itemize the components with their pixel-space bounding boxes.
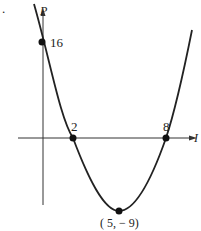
- root-left-label: 2: [71, 120, 78, 133]
- vertex-label: ( 5, − 9): [100, 217, 139, 229]
- point-vertex: [116, 208, 123, 215]
- bullet-mark: .: [2, 2, 5, 15]
- parabola-graph: [0, 0, 201, 231]
- point-root-left: [70, 135, 77, 142]
- x-axis-label: I: [194, 132, 198, 144]
- y-intercept-label: 16: [50, 36, 63, 49]
- point-root-right: [163, 135, 170, 142]
- point-y-intercept: [39, 39, 46, 46]
- root-right-label: 8: [163, 120, 170, 133]
- y-axis-label: P: [40, 5, 47, 17]
